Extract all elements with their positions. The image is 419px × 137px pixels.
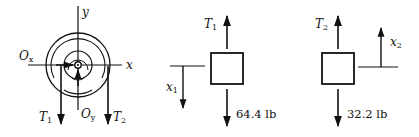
y-axis-label: y xyxy=(81,5,89,19)
tension-t2-label: T2 xyxy=(113,110,126,125)
x-axis-label: x xyxy=(126,58,133,72)
block2-tension-label: T2 xyxy=(315,17,328,32)
block1-fbd: T1 x1 64.4 lb xyxy=(166,16,276,126)
block2-fbd: T2 x2 32.2 lb xyxy=(315,16,402,126)
block2-coordinate-label: x2 xyxy=(390,35,402,50)
block1-box xyxy=(211,53,243,84)
reaction-oy-label: Oy xyxy=(81,107,96,122)
tension-t1-label: T1 xyxy=(39,110,52,125)
block1-coordinate-label: x1 xyxy=(166,80,178,95)
block1-tension-label: T1 xyxy=(204,17,217,32)
pulley-fbd: y x Ox Oy T1 T2 xyxy=(19,5,133,125)
reaction-ox-label: Ox xyxy=(19,49,34,64)
diagram-canvas: y x Ox Oy T1 T2 T1 x1 64.4 lb xyxy=(0,0,419,137)
block1-weight-label: 64.4 lb xyxy=(236,107,276,121)
axle-center xyxy=(77,64,79,66)
block2-box xyxy=(322,53,354,84)
block2-weight-label: 32.2 lb xyxy=(347,107,387,121)
